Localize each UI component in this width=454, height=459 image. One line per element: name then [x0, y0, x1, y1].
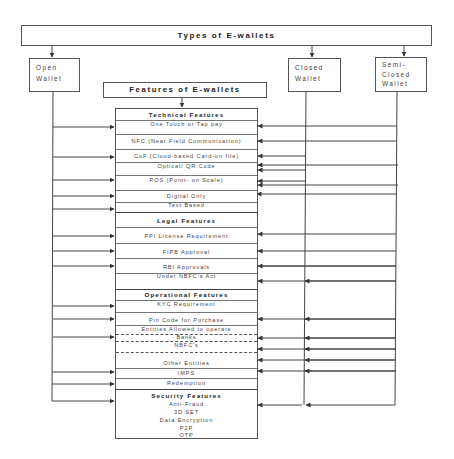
open-wallet-line-2: Wallet	[36, 73, 79, 84]
section-divider	[116, 289, 257, 290]
divider	[116, 378, 257, 379]
open-wallet-line-1: Open	[36, 62, 79, 73]
semi-closed-wallet-label: Semi- Closed Wallet	[376, 58, 426, 89]
legal-item-rbi: RBI Approvals	[116, 264, 257, 270]
legal-item-fipb: FIPB Approval	[116, 249, 257, 255]
section-divider	[116, 389, 257, 390]
open-wallet-label: Open Wallet	[30, 59, 79, 84]
closed-wallet-label: Closed Wallet	[289, 59, 340, 84]
legal-item-ppi: PPI License Requirement	[116, 233, 257, 239]
divider	[116, 368, 257, 369]
sec-item-data-encryption: Data Encryption	[116, 417, 257, 423]
tech-item-nfc: NFC (Near Field Communication)	[116, 138, 257, 144]
dashed-divider	[116, 352, 257, 353]
op-item-pin-code: Pin Code for Purchase	[116, 317, 257, 323]
op-item-other-entities: Other Entities	[116, 360, 257, 366]
tech-item-digital-only: Digital Only	[116, 193, 257, 199]
types-of-ewallets-banner: Types of E-wallets	[21, 25, 432, 46]
operational-features-header: Operational Features	[116, 291, 257, 298]
tech-item-pos: POS (Point- on Scale)	[116, 177, 257, 183]
op-item-nbfcs: NBFC's	[116, 342, 257, 348]
divider	[116, 134, 257, 135]
closed-wallet-box: Closed Wallet	[288, 58, 341, 92]
security-features-header: Security Features	[116, 392, 257, 399]
features-title: Features of E-wallets	[104, 83, 266, 97]
tech-item-one-touch: One Touch or Tap pay	[116, 121, 257, 127]
semi-closed-wallet-line-2: Closed	[382, 70, 426, 80]
legal-features-header: Legal Features	[116, 217, 257, 224]
divider	[116, 227, 257, 228]
divider	[116, 190, 257, 191]
banner-title: Types of E-wallets	[22, 26, 431, 45]
technical-features-header: Technical Features	[116, 111, 257, 118]
features-main-box: Technical Features One Touch or Tap pay …	[115, 108, 258, 439]
semi-closed-wallet-line-3: Wallet	[382, 79, 426, 89]
legal-item-nbfc-act: Under NBFC's Act	[116, 273, 257, 279]
divider	[116, 243, 257, 244]
closed-wallet-line-2: Wallet	[295, 73, 340, 84]
op-item-imps: IMPS	[116, 370, 257, 376]
semi-closed-wallet-line-1: Semi-	[382, 60, 426, 70]
closed-wallet-line-1: Closed	[295, 62, 340, 73]
features-title-box: Features of E-wallets	[103, 82, 267, 98]
divider	[116, 149, 257, 150]
sec-item-otp: OTP	[116, 432, 257, 438]
sec-item-p2p: P2P	[116, 425, 257, 431]
divider	[116, 258, 257, 259]
open-wallet-box: Open Wallet	[29, 58, 80, 92]
op-item-banks: Banks	[116, 334, 257, 340]
tech-item-optical-qr: Optical/ QR Code	[116, 163, 257, 169]
sec-item-anti-fraud: Anti-Fraud	[116, 401, 257, 407]
op-item-redemption: Redemption	[116, 380, 257, 386]
op-item-kyc: KYC Requirement	[116, 301, 257, 307]
divider	[116, 175, 257, 176]
op-item-entities-allowed: Entities Allowed to operate	[116, 326, 257, 332]
semi-closed-wallet-box: Semi- Closed Wallet	[375, 57, 427, 92]
divider	[116, 312, 257, 313]
tech-item-cof: CoF (Cloud-based Card-on file)	[116, 153, 257, 159]
tech-item-text-based: Text Based	[116, 202, 257, 208]
sec-item-3d-set: 3D SET	[116, 409, 257, 415]
section-divider	[116, 212, 257, 213]
